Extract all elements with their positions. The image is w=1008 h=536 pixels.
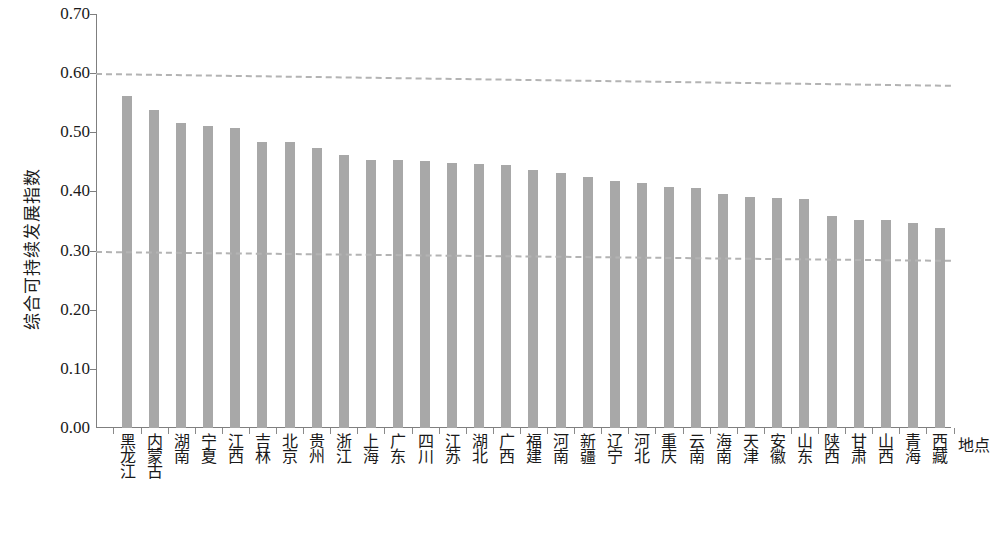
y-tick-label: 0.50 — [38, 123, 90, 140]
bar — [745, 197, 755, 428]
y-axis-line — [96, 14, 97, 428]
x-category-label: 河南 — [553, 434, 568, 464]
y-tick-label: 0.40 — [38, 182, 90, 199]
x-category-label: 湖北 — [472, 434, 487, 464]
bar — [691, 188, 701, 428]
bar — [799, 199, 809, 428]
bar — [501, 165, 511, 428]
bar — [528, 170, 538, 428]
y-tick-mark — [90, 191, 96, 192]
x-category-label: 北京 — [282, 434, 297, 464]
x-category-label: 四川 — [418, 434, 433, 464]
bar — [610, 181, 620, 428]
bar — [285, 142, 295, 428]
x-category-label: 广东 — [390, 434, 405, 464]
x-category-label: 上海 — [363, 434, 378, 464]
x-category-label: 江苏 — [445, 434, 460, 464]
upper-reference-line — [96, 73, 951, 87]
x-category-label: 宁夏 — [201, 434, 216, 464]
bar — [664, 187, 674, 428]
x-axis-title: 地点 — [958, 432, 990, 456]
bar — [908, 223, 918, 428]
bar — [827, 216, 837, 428]
chart-figure: 综合可持续发展指数 0.700.600.500.400.300.200.100.… — [0, 0, 1008, 536]
bar — [420, 161, 430, 428]
y-tick-mark — [90, 132, 96, 133]
x-category-label: 西藏 — [932, 434, 947, 464]
bar — [312, 148, 322, 428]
x-category-label: 海南 — [716, 434, 731, 464]
y-tick-label: 0.70 — [38, 5, 90, 22]
y-tick-label: 0.30 — [38, 242, 90, 259]
x-category-label: 内蒙古 — [147, 434, 162, 479]
y-tick-label: 0.00 — [38, 419, 90, 436]
x-category-label: 山东 — [797, 434, 812, 464]
bar — [935, 228, 945, 428]
bar — [583, 177, 593, 428]
x-axis-category-labels: 黑龙江内蒙古湖南宁夏江西吉林北京贵州浙江上海广东四川江苏湖北广西福建河南新疆辽宁… — [96, 434, 951, 530]
bar — [203, 126, 213, 428]
x-category-label: 广西 — [499, 434, 514, 464]
bar — [718, 194, 728, 428]
bar — [339, 155, 349, 428]
bar — [637, 183, 647, 428]
x-category-label: 河北 — [634, 434, 649, 464]
bar — [149, 110, 159, 428]
x-category-label: 山西 — [878, 434, 893, 464]
bar — [772, 198, 782, 428]
y-tick-label: 0.60 — [38, 64, 90, 81]
x-category-label: 吉林 — [255, 434, 270, 464]
x-category-label: 黑龙江 — [120, 434, 135, 479]
x-category-label: 天津 — [743, 434, 758, 464]
bar — [257, 142, 267, 428]
bar — [447, 163, 457, 428]
y-tick-mark — [90, 14, 96, 15]
x-category-label: 云南 — [689, 434, 704, 464]
x-category-label: 陕西 — [824, 434, 839, 464]
plot-area — [96, 14, 951, 428]
x-category-label: 湖南 — [174, 434, 189, 464]
bar — [393, 160, 403, 428]
x-category-label: 安徽 — [770, 434, 785, 464]
y-axis-tick-labels: 0.700.600.500.400.300.200.100.00 — [36, 14, 90, 428]
x-category-label: 辽宁 — [607, 434, 622, 464]
x-category-label: 青海 — [905, 434, 920, 464]
x-category-label: 浙江 — [336, 434, 351, 464]
x-category-label: 重庆 — [661, 434, 676, 464]
y-tick-mark — [90, 369, 96, 370]
y-tick-label: 0.10 — [38, 360, 90, 377]
x-tick-mark — [954, 428, 955, 434]
x-category-label: 贵州 — [309, 434, 324, 464]
bar — [176, 123, 186, 428]
bar — [556, 173, 566, 428]
x-category-label: 新疆 — [580, 434, 595, 464]
lower-reference-line — [96, 251, 951, 262]
x-category-label: 甘肃 — [851, 434, 866, 464]
bar — [230, 128, 240, 428]
bar — [854, 220, 864, 428]
y-tick-mark — [90, 310, 96, 311]
bar — [122, 96, 132, 428]
x-category-label: 福建 — [526, 434, 541, 464]
x-axis-line — [96, 427, 951, 428]
x-category-label: 江西 — [228, 434, 243, 464]
y-tick-label: 0.20 — [38, 301, 90, 318]
bar — [366, 160, 376, 428]
bar — [474, 164, 484, 428]
bar — [881, 220, 891, 428]
